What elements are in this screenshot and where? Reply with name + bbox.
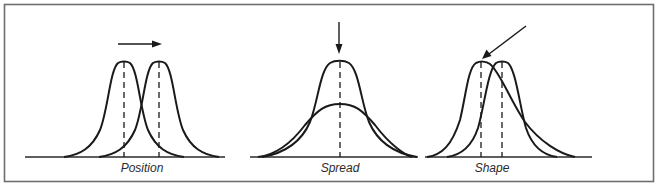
distribution-differences-diagram: Position Spread Shape (0, 0, 658, 185)
arrow-right-icon (118, 41, 162, 48)
panel-spread: Spread (250, 22, 418, 175)
panel-label-shape: Shape (475, 161, 510, 175)
shape-curve-skewed (427, 62, 575, 157)
panel-label-position: Position (121, 161, 164, 175)
arrow-diagonal-icon (482, 26, 526, 59)
panel-position: Position (25, 41, 225, 176)
panel-label-spread: Spread (321, 161, 360, 175)
figure-frame (5, 5, 654, 182)
panel-shape: Shape (425, 26, 592, 175)
arrow-down-icon (336, 22, 343, 54)
spread-curve-wide (258, 104, 412, 157)
